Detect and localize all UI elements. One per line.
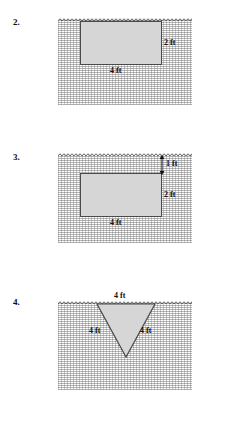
- problem-number-4: 4.: [13, 297, 20, 307]
- dimension-label-depth-3: 1 ft: [166, 159, 177, 168]
- dimension-label-left-4: 4 ft: [89, 326, 100, 335]
- rectangle-shape-2: [80, 21, 162, 65]
- rectangle-shape-3: [80, 173, 162, 217]
- dimension-label-height-3: 2 ft: [164, 190, 175, 199]
- dimension-label-width-2: 4 ft: [110, 66, 121, 75]
- problem-number-2: 2.: [13, 17, 20, 27]
- dimension-label-top-4: 4 ft: [114, 291, 125, 300]
- dimension-label-right-4: 4 ft: [140, 326, 151, 335]
- dimension-label-height-2: 2 ft: [164, 38, 175, 47]
- dimension-label-width-3: 4 ft: [110, 218, 121, 227]
- problem-number-3: 3.: [13, 152, 20, 162]
- depth-arrow-3: [158, 155, 166, 175]
